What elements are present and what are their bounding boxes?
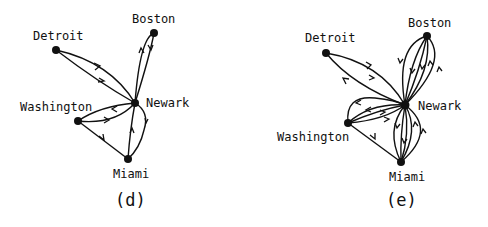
node-miami xyxy=(397,158,405,166)
node-newark xyxy=(131,99,139,107)
label-miami: Miami xyxy=(113,167,149,181)
node-washington xyxy=(74,117,82,125)
label-washington: Washington xyxy=(20,100,92,114)
panel-d-edges xyxy=(56,33,154,159)
route-diagrams: Detroit Boston Newark Washington Miami (… xyxy=(0,0,488,227)
caption-d: (d) xyxy=(115,190,146,210)
label-newark: Newark xyxy=(146,96,190,110)
node-washington xyxy=(344,119,352,127)
label-detroit: Detroit xyxy=(33,29,84,43)
node-boston xyxy=(150,29,158,37)
node-detroit xyxy=(52,46,60,54)
node-newark xyxy=(401,101,410,110)
node-miami xyxy=(124,155,132,163)
panel-e-nodes: Detroit Boston Newark Washington Miami (… xyxy=(277,16,462,210)
label-boston: Boston xyxy=(408,16,451,30)
label-washington: Washington xyxy=(277,130,349,144)
label-detroit: Detroit xyxy=(305,31,356,45)
node-detroit xyxy=(322,49,330,57)
label-newark: Newark xyxy=(418,99,462,113)
panel-d-nodes: Detroit Boston Newark Washington Miami (… xyxy=(20,12,190,210)
label-boston: Boston xyxy=(132,12,175,26)
caption-e: (e) xyxy=(386,190,417,210)
label-miami: Miami xyxy=(389,170,425,184)
node-boston xyxy=(423,32,431,40)
